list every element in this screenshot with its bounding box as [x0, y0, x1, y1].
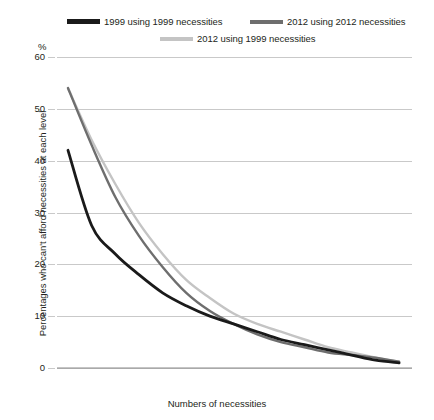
y-axis-tick-mark — [48, 213, 55, 214]
series-lines — [57, 57, 412, 368]
legend-item-1999-using-1999-necessities: 1999 using 1999 necessities — [67, 16, 223, 27]
legend-swatch-icon — [250, 20, 283, 24]
plot-area: 0102030405060 1+2+3+4+5+6+7+8+9+10+11+12… — [57, 57, 412, 368]
y-axis-tick-label: 40 — [21, 156, 45, 166]
series-line — [68, 88, 399, 362]
y-axis-tick-label: 30 — [21, 208, 45, 218]
series-line — [68, 150, 399, 363]
y-axis-tick-label: 0 — [21, 363, 45, 373]
y-axis-tick-label: 10 — [21, 311, 45, 321]
legend-item-2012-using-2012-necessities: 2012 using 2012 necessities — [250, 16, 406, 27]
y-axis-tick-mark — [48, 368, 55, 369]
legend-label: 2012 using 2012 necessities — [287, 16, 406, 27]
y-axis-tick-mark — [48, 57, 55, 58]
legend-swatch-icon — [67, 19, 100, 24]
x-axis-title: Numbers of necessities — [0, 398, 434, 409]
y-axis-tick-label: 50 — [21, 104, 45, 114]
legend-label: 2012 using 1999 necessities — [197, 33, 316, 44]
legend-item-2012-using-1999-necessities: 2012 using 1999 necessities — [160, 33, 316, 44]
chart-figure: 1999 using 1999 necessities 2012 using 2… — [0, 0, 434, 420]
legend-swatch-icon — [160, 37, 193, 41]
y-axis-tick-mark — [48, 316, 55, 317]
y-axis-tick-mark — [48, 109, 55, 110]
y-axis-tick-mark — [48, 161, 55, 162]
series-line — [68, 88, 399, 362]
chart-legend: 1999 using 1999 necessities 2012 using 2… — [0, 0, 434, 52]
y-axis-tick-label: 60 — [21, 52, 45, 62]
legend-label: 1999 using 1999 necessities — [104, 16, 223, 27]
y-axis-tick-label: 20 — [21, 259, 45, 269]
y-axis-tick-mark — [48, 264, 55, 265]
